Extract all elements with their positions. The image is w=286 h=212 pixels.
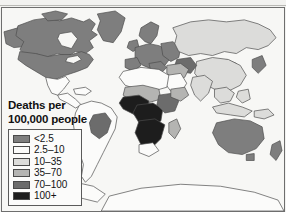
legend-label-35-70: 35–70 [34,168,62,178]
legend-title: Deaths per 100,000 people [8,99,92,126]
world-map-figure: Deaths per 100,000 people <2.5 2.5–10 10… [0,0,286,212]
legend-swatch-10-35 [13,158,30,166]
map-legend: Deaths per 100,000 people <2.5 2.5–10 10… [8,99,92,206]
legend-item-100-plus: 100+ [13,191,78,202]
legend-swatch-35-70 [13,169,30,177]
legend-swatch-2-5-10 [13,146,30,154]
legend-swatch-70-100 [13,181,30,189]
region-canada [16,18,97,58]
legend-item-70-100: 70–100 [13,179,78,190]
legend-swatch-100-plus [13,192,30,200]
map-frame: Deaths per 100,000 people <2.5 2.5–10 10… [1,7,285,212]
legend-item-10-35: 10–35 [13,156,78,167]
region-tasmania [246,154,254,161]
legend-title-line-1: Deaths per [8,99,92,113]
legend-label-70-100: 70–100 [34,180,67,190]
legend-title-line-2: 100,000 people [8,113,92,127]
legend-item-2-5-10: 2.5–10 [13,145,78,156]
top-divider [0,5,286,6]
legend-label-lt-2-5: <2.5 [34,134,54,144]
legend-label-2-5-10: 2.5–10 [34,145,65,155]
legend-swatch-lt-2-5 [13,135,30,143]
legend-label-10-35: 10–35 [34,157,62,167]
legend-label-100-plus: 100+ [34,191,57,201]
legend-box: <2.5 2.5–10 10–35 35–70 70–100 [8,129,82,206]
legend-item-lt-2-5: <2.5 [13,133,78,144]
legend-item-35-70: 35–70 [13,168,78,179]
